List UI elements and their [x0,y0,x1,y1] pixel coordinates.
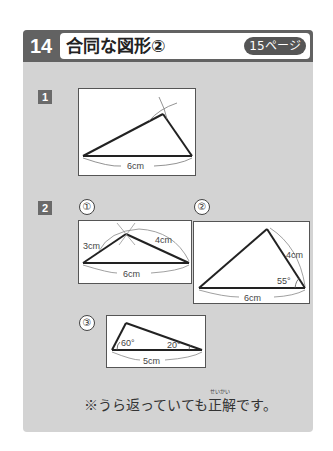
triangle-construction-q2-2: 4cm 55° 6cm [194,222,311,305]
page-title: 合同な図形② [66,33,165,59]
svg-text:60°: 60° [121,338,135,348]
svg-text:4cm: 4cm [286,250,303,260]
sub-question-1: ① [79,199,95,215]
svg-text:3cm: 3cm [83,241,100,251]
svg-text:6cm: 6cm [123,269,140,279]
svg-text:5cm: 5cm [143,356,160,366]
sub-question-3: ③ [79,315,95,331]
figure-q2-1: 3cm 4cm 6cm [78,220,192,284]
svg-text:6cm: 6cm [244,293,261,303]
svg-text:20°: 20° [167,340,181,350]
note-text: ※うら返っていても正解です。 [60,394,300,414]
triangle-construction-q2-1: 3cm 4cm 6cm [79,221,193,285]
triangle-construction-q2-3: 60° 20° 5cm [107,316,207,369]
svg-text:6cm: 6cm [127,161,144,171]
figure-q1: 6cm [78,88,196,176]
lesson-number: 14 [23,30,59,62]
figure-q2-3: 60° 20° 5cm [106,315,206,368]
svg-text:4cm: 4cm [155,235,172,245]
svg-text:55°: 55° [277,276,291,286]
question-number-1: 1 [38,90,52,104]
triangle-construction-q1: 6cm [79,89,197,177]
sub-question-2: ② [194,199,210,215]
page-reference-badge: 15ページ [244,37,306,55]
question-number-2: 2 [38,201,52,215]
figure-q2-2: 4cm 55° 6cm [193,221,310,304]
furigana: せいかい [210,387,230,394]
